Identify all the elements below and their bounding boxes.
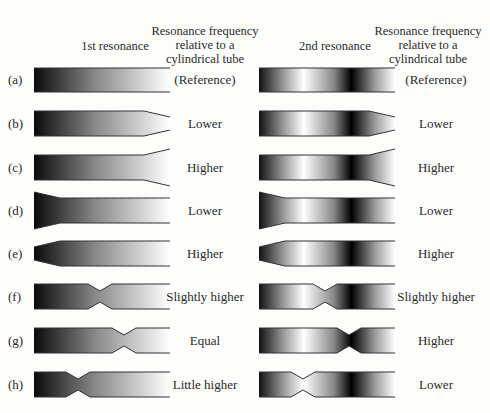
tube-h-1st [34, 372, 170, 397]
tube-h-2nd [259, 372, 395, 397]
tube-d-2nd [259, 192, 395, 229]
tube-c-2nd [259, 149, 395, 186]
tube-e-1st [34, 241, 170, 266]
result-1st-e: Higher [155, 246, 255, 262]
row-label-c: (c) [8, 160, 22, 176]
result-2nd-f: Slightly higher [386, 289, 486, 305]
tube-c-1st [34, 149, 170, 186]
tube-a-2nd [259, 68, 395, 92]
tube-g-2nd [259, 328, 395, 353]
row-label-e: (e) [8, 246, 22, 262]
result-1st-g: Equal [155, 333, 255, 349]
row-label-h: (h) [8, 377, 23, 393]
tube-g-1st [34, 328, 170, 353]
row-label-g: (g) [8, 333, 23, 349]
result-1st-c: Higher [155, 160, 255, 176]
result-2nd-c: Higher [386, 160, 486, 176]
row-label-b: (b) [8, 116, 23, 132]
tube-f-1st [34, 284, 170, 309]
result-1st-d: Lower [155, 203, 255, 219]
tube-d-1st [34, 192, 170, 229]
result-1st-f: Slightly higher [155, 289, 255, 305]
result-2nd-h: Lower [386, 377, 486, 393]
result-2nd-b: Lower [386, 116, 486, 132]
row-label-a: (a) [8, 72, 22, 88]
result-2nd-g: Higher [386, 333, 486, 349]
tube-f-2nd [259, 284, 395, 309]
tube-b-2nd [259, 111, 395, 136]
result-1st-b: Lower [155, 116, 255, 132]
result-2nd-d: Lower [386, 203, 486, 219]
tube-e-2nd [259, 241, 395, 266]
tube-b-1st [34, 111, 170, 136]
tube-a-1st [34, 68, 170, 92]
result-1st-h: Little higher [155, 377, 255, 393]
row-label-d: (d) [8, 203, 23, 219]
result-1st-a: (Reference) [155, 72, 255, 88]
result-2nd-e: Higher [386, 246, 486, 262]
row-label-f: (f) [8, 289, 21, 305]
result-2nd-a: (Reference) [386, 72, 486, 88]
